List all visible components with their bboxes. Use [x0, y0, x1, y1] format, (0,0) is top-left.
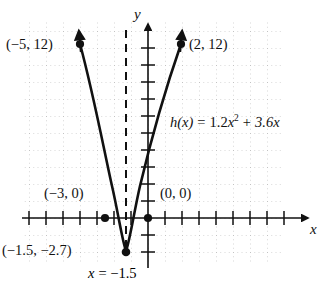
point-label-right-endpoint: (2, 12)	[189, 37, 228, 52]
point-x-intercept-left	[101, 214, 109, 222]
grid-dots	[24, 22, 282, 262]
y-axis-label: y	[134, 7, 141, 22]
point-origin	[144, 214, 152, 222]
equation-plus: +	[243, 114, 251, 130]
equation-term2: 3.6x	[255, 114, 280, 130]
point-right-endpoint	[177, 40, 185, 48]
point-label-x-intercept-left: (−3, 0)	[44, 186, 84, 201]
equation-term1-exponent: 2	[234, 113, 239, 123]
axis-of-symmetry-label: x= −1.5	[88, 266, 137, 281]
equation-equals: =	[197, 114, 205, 130]
x-axis-label: x	[310, 222, 317, 237]
equation-lhs: h(x)	[170, 114, 193, 130]
axis-of-symmetry-variable: x	[88, 265, 94, 281]
point-left-endpoint	[76, 40, 84, 48]
graph-figure: (−5, 12) (2, 12) (−3, 0) (0, 0) (−1.5, −…	[0, 0, 330, 288]
point-label-origin: (0, 0)	[160, 186, 191, 201]
point-label-vertex: (−1.5, −2.7)	[2, 243, 72, 258]
point-vertex	[122, 248, 131, 257]
point-label-left-endpoint: (−5, 12)	[6, 37, 53, 52]
function-equation-label: h(x)=1.2x2+3.6x	[170, 115, 280, 130]
equation-term1-coeff: 1.2	[210, 114, 228, 130]
axis-of-symmetry-value: = −1.5	[98, 265, 136, 281]
